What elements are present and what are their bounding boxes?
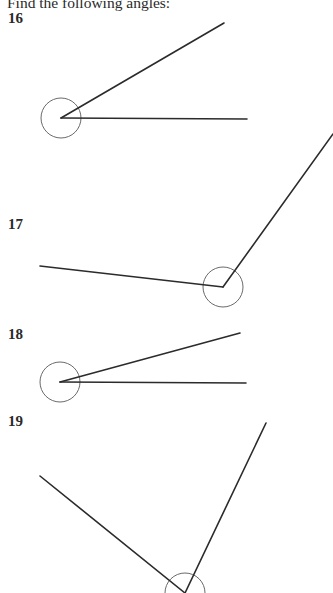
angle-ray-1 — [60, 333, 240, 382]
angle-ray-2 — [60, 382, 246, 383]
angle-arc-marker — [165, 573, 205, 593]
angle-figure-17 — [40, 134, 333, 307]
angle-ray-2 — [40, 476, 185, 593]
angle-ray-1 — [223, 134, 333, 287]
angle-ray-1 — [61, 23, 224, 118]
angle-figure-19 — [40, 423, 266, 593]
angle-ray-1 — [185, 423, 266, 593]
angle-ray-2 — [61, 118, 247, 119]
angle-figure-16 — [41, 23, 247, 138]
angle-figure-18 — [40, 333, 246, 402]
angle-figures — [0, 0, 333, 593]
angle-ray-2 — [40, 266, 223, 287]
angles-group — [40, 23, 333, 593]
